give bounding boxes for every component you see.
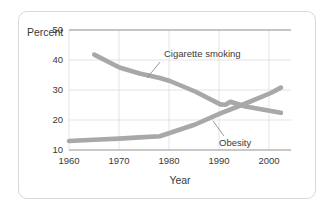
ytick-label-30: 30	[52, 84, 63, 95]
series-label-obesity: Obesity	[219, 137, 251, 148]
xtick-label-2000: 2000	[258, 155, 279, 166]
series-line-obesity	[69, 88, 281, 141]
xtick-label-1960: 1960	[58, 155, 79, 166]
series-label-cigarette-smoking: Cigarette smoking	[164, 48, 241, 59]
ytick-label-40: 40	[52, 54, 63, 65]
y-axis-title: Percent	[27, 26, 63, 38]
line-chart: 50 40 30 20 10 1960 1970 1980 1990 2000 …	[19, 12, 317, 200]
ytick-label-20: 20	[52, 114, 63, 125]
chart-area: 50 40 30 20 10 1960 1970 1980 1990 2000 …	[19, 12, 317, 200]
x-axis-title: Year	[169, 174, 191, 186]
ytick-label-10: 10	[52, 144, 63, 155]
leader-line-obesity	[213, 121, 224, 136]
series-line-cigarette-smoking	[94, 55, 281, 113]
xtick-label-1990: 1990	[208, 155, 229, 166]
xtick-label-1980: 1980	[158, 155, 179, 166]
figure-card: 50 40 30 20 10 1960 1970 1980 1990 2000 …	[18, 11, 316, 199]
xtick-label-1970: 1970	[108, 155, 129, 166]
